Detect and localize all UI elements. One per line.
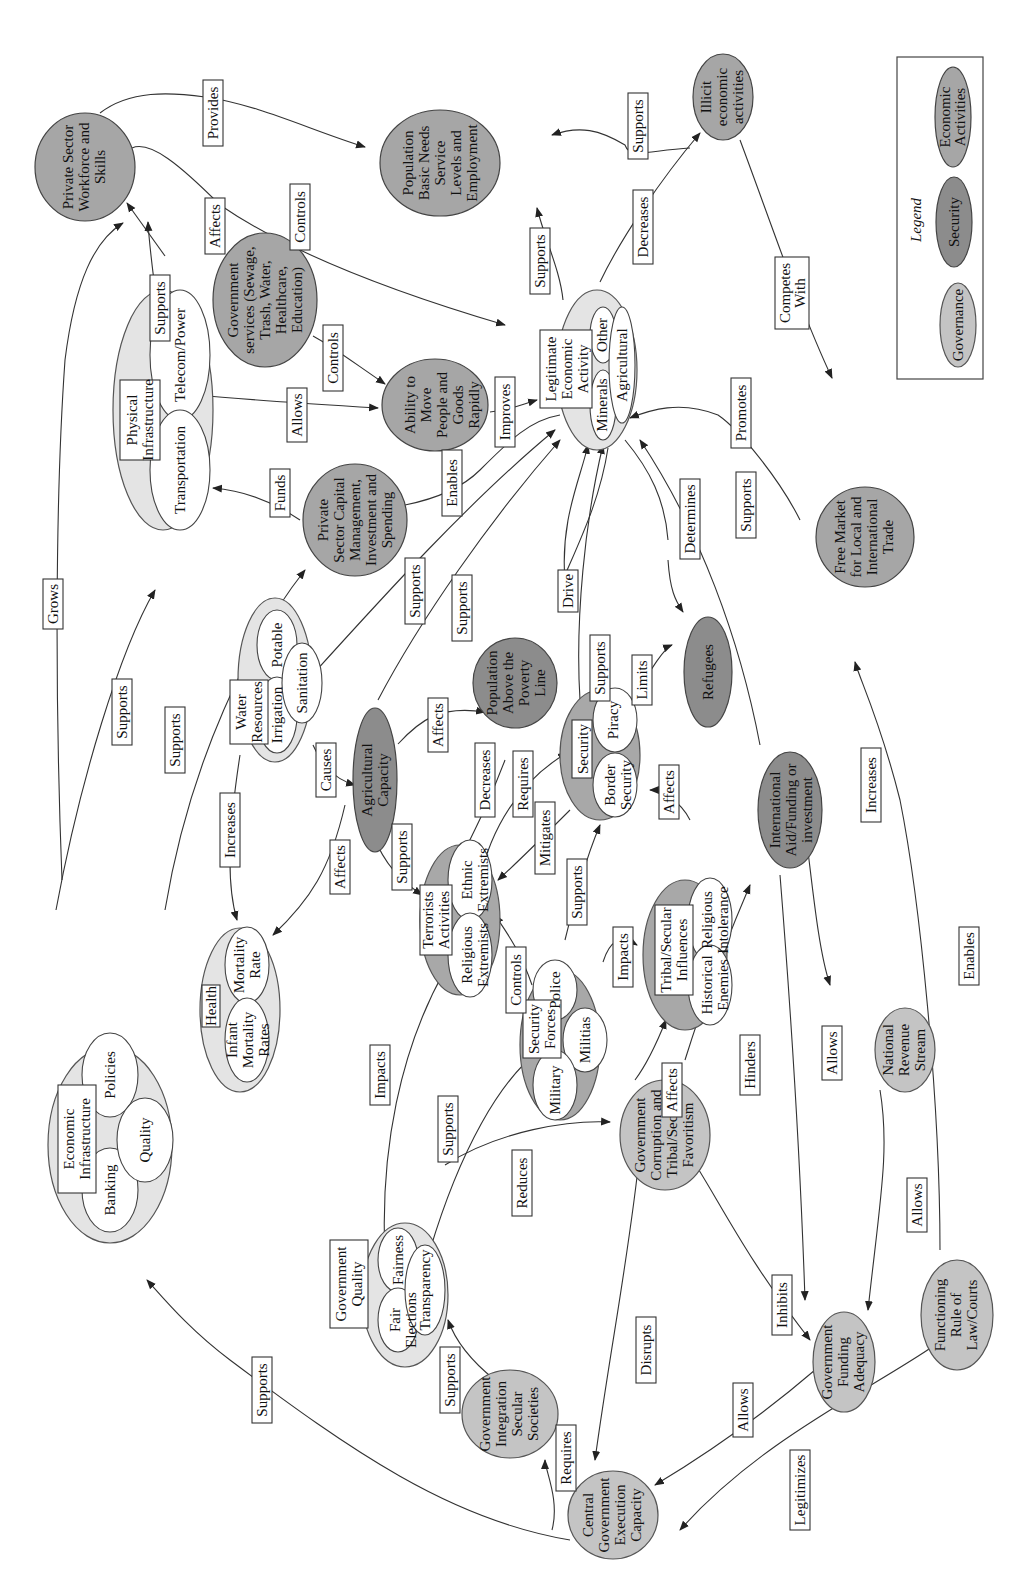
svg-text:ReligiousExtremists: ReligiousExtremists <box>459 923 491 987</box>
svg-text:Security: Security <box>575 724 591 774</box>
edge-label-controls-move: Controls <box>325 332 341 384</box>
edge-label-allows: Allows <box>289 393 305 437</box>
edge-label-hinders: Hinders <box>742 1041 758 1089</box>
svg-text:ReligiousIntolerance: ReligiousIntolerance <box>699 886 731 954</box>
edge-label-supports-sf: Supports <box>569 865 585 919</box>
svg-text:Sanitation: Sanitation <box>294 652 310 713</box>
node-private-sector-workforce: Private SectorWorkforce andSkills <box>35 113 135 221</box>
edge-impacts-terrorists <box>384 970 445 1255</box>
edge-provides <box>100 94 365 147</box>
edge-label-limits: Limits <box>634 660 650 699</box>
edge-label-affects-health: Affects <box>332 845 348 889</box>
edge-label-increases-rev: Increases <box>863 757 879 813</box>
group-government-quality: GovernmentQuality Fairness FairElections… <box>330 1223 448 1367</box>
edge-label-funds: Funds <box>272 475 288 512</box>
edge-label-affects-poverty: Affects <box>430 703 446 747</box>
node-population-above-poverty: PopulationAbove thePovertyLine <box>473 638 557 728</box>
edge-label-requires-gi: Requires <box>558 1431 574 1484</box>
edge-allows-aid <box>780 875 805 1300</box>
edge-label-supports-gi: Supports <box>442 1353 458 1407</box>
group-tribal-secular: Tribal/SecularInfluences ReligiousIntole… <box>643 878 732 1030</box>
edge-label-controls-terr: Controls <box>508 954 524 1006</box>
edge-label-supports-security: Supports <box>592 641 608 695</box>
svg-text:Minerals: Minerals <box>594 378 610 431</box>
node-private-sector-capital: PrivateSector CapitalManagement,Investme… <box>303 464 407 576</box>
node-free-market: Free Marketfor Local andInternationalTra… <box>816 487 914 587</box>
svg-text:Transportation: Transportation <box>172 426 188 514</box>
legend-label-governance: Governance <box>950 288 966 361</box>
node-government-funding: GovernmentFundingAdequacy <box>813 1312 875 1412</box>
svg-text:Telecom/Power: Telecom/Power <box>172 308 188 402</box>
svg-text:Irrigation: Irrigation <box>269 686 285 743</box>
edge-label-affects: Affects <box>207 204 223 248</box>
legend: Legend Governance Security EconomicActiv… <box>897 57 983 379</box>
edge-label-allows-aid: Allows <box>824 1031 840 1075</box>
node-national-revenue: NationalRevenueStream <box>875 1008 935 1092</box>
svg-text:InternationalAid/Funding orinv: InternationalAid/Funding orinvestment <box>767 764 815 857</box>
svg-text:LegitimateEconomicActivity: LegitimateEconomicActivity <box>543 336 591 401</box>
node-agricultural-capacity: AgriculturalCapacity <box>353 708 397 852</box>
legend-title: Legend <box>908 197 924 243</box>
node-ability-to-move: Ability toMovePeople andGoodsRapidly <box>382 359 488 451</box>
edge-label-reduces: Reduces <box>514 1157 530 1208</box>
group-economic-infrastructure: EconomicInfrastructure Policies Banking … <box>48 1033 173 1243</box>
edge-label-supports-gq: Supports <box>440 1102 456 1156</box>
edge-label-affects-security: Affects <box>661 770 677 814</box>
node-illicit-economic: Illiciteconomicactivities <box>693 54 753 140</box>
edge-label-grows: Grows <box>45 584 61 624</box>
edge-label-increases-health: Increases <box>222 802 238 858</box>
edge-drive-back <box>564 445 588 581</box>
edge-label-inhibits: Inhibits <box>774 1282 790 1328</box>
edge-label-affects-tribal: Affects <box>664 1068 680 1112</box>
edge-label-determines: Determines <box>682 484 698 553</box>
svg-text:Agricultural: Agricultural <box>614 328 630 401</box>
node-government-integration: GovernmentIntegrationSecularSocieties <box>462 1370 558 1458</box>
svg-text:Potable: Potable <box>269 622 285 667</box>
svg-text:Military: Military <box>547 1065 563 1115</box>
svg-text:Refugees: Refugees <box>700 644 716 700</box>
node-international-aid: InternationalAid/Funding orinvestment <box>758 752 822 868</box>
edge-supports-ei-physinfra <box>56 590 155 910</box>
edge-label-mitigates: Mitigates <box>537 810 553 867</box>
svg-text:Policies: Policies <box>102 1051 118 1099</box>
group-health: Health MortalityRate InfantMortalityRate… <box>200 927 280 1092</box>
causal-loop-diagram: Private SectorWorkforce andSkills Popula… <box>0 0 1025 1595</box>
group-terrorists: TerroristsActivities EthnicExtremists Re… <box>420 840 500 997</box>
svg-text:Transparency: Transparency <box>417 1249 433 1331</box>
edge-label-disrupts: Disrupts <box>638 1324 654 1375</box>
edge-label-supports-ei-pi: Supports <box>114 685 130 739</box>
edge-label-supports-cg-ei: Supports <box>254 1363 270 1417</box>
group-security: Security Piracy BorderSecurity <box>560 688 640 820</box>
edge-label-supports-wr: Supports <box>407 564 423 618</box>
edge-grows <box>57 223 123 880</box>
edge-label-requires: Requires <box>515 757 531 810</box>
edge-requires-gi <box>545 1460 554 1530</box>
edge-disrupts <box>595 1150 640 1460</box>
edge-supports-illicit <box>552 130 690 153</box>
edge-label-enables: Enables <box>444 459 460 507</box>
svg-text:Militias: Militias <box>577 1017 593 1064</box>
edge-label-decreases-terr: Decreases <box>477 749 493 810</box>
edge-label-drive: Drive <box>560 574 576 608</box>
svg-text:Banking: Banking <box>102 1164 118 1215</box>
svg-text:Quality: Quality <box>137 1117 153 1162</box>
edge-label-promotes: Promotes <box>733 385 749 442</box>
edge-label-supports-ac: Supports <box>454 581 470 635</box>
edge-label-supports-ei-pc: Supports <box>167 713 183 767</box>
group-legitimate-economic: LegitimateEconomicActivity Other Mineral… <box>540 290 637 450</box>
svg-text:AgriculturalCapacity: AgriculturalCapacity <box>359 743 391 816</box>
edge-label-controls: Controls <box>292 191 308 243</box>
edge-label-supports-illicit: Supports <box>630 99 646 153</box>
node-population-basic-needs: PopulationBasic NeedsServiceLevels andEm… <box>380 110 500 216</box>
svg-text:BorderSecurity: BorderSecurity <box>602 760 634 810</box>
svg-text:NationalRevenueStream: NationalRevenueStream <box>880 1023 928 1076</box>
node-refugees: Refugees <box>684 617 732 727</box>
edge-label-enables-fm: Enables <box>961 932 977 980</box>
edge-label-impacts-tribal: Impacts <box>615 933 631 981</box>
edge-label-supports-terrorists: Supports <box>394 830 410 884</box>
edge-label-legitimizes: Legitimizes <box>792 1454 808 1525</box>
edge-label-decreases: Decreases <box>635 196 651 257</box>
edge-affects-tribal <box>635 1020 666 1080</box>
group-security-forces: SecurityForces Police Militias Military <box>520 960 607 1120</box>
edge-affects-govservices <box>127 203 165 256</box>
